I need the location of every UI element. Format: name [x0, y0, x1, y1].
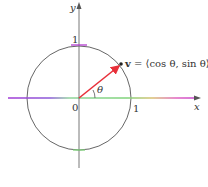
x-axis-arrow-icon: [194, 96, 201, 101]
origin-label: 0: [72, 102, 78, 113]
x-axis-label: x: [194, 101, 200, 112]
vector-tip-point: [119, 62, 123, 66]
y-one-label: 1: [72, 34, 78, 45]
unit-circle-diagram: y x 0 1 1 θ v = ⟨cos θ, sin θ⟩: [0, 0, 208, 187]
y-axis-label: y: [69, 2, 76, 13]
vector-label: v = ⟨cos θ, sin θ⟩: [124, 58, 208, 69]
vector-expression: = ⟨cos θ, sin θ⟩: [131, 58, 208, 69]
angle-arc: [93, 90, 95, 98]
y-axis-arrow-icon: [77, 2, 82, 9]
angle-label: θ: [97, 84, 103, 95]
x-one-label: 1: [133, 103, 139, 114]
